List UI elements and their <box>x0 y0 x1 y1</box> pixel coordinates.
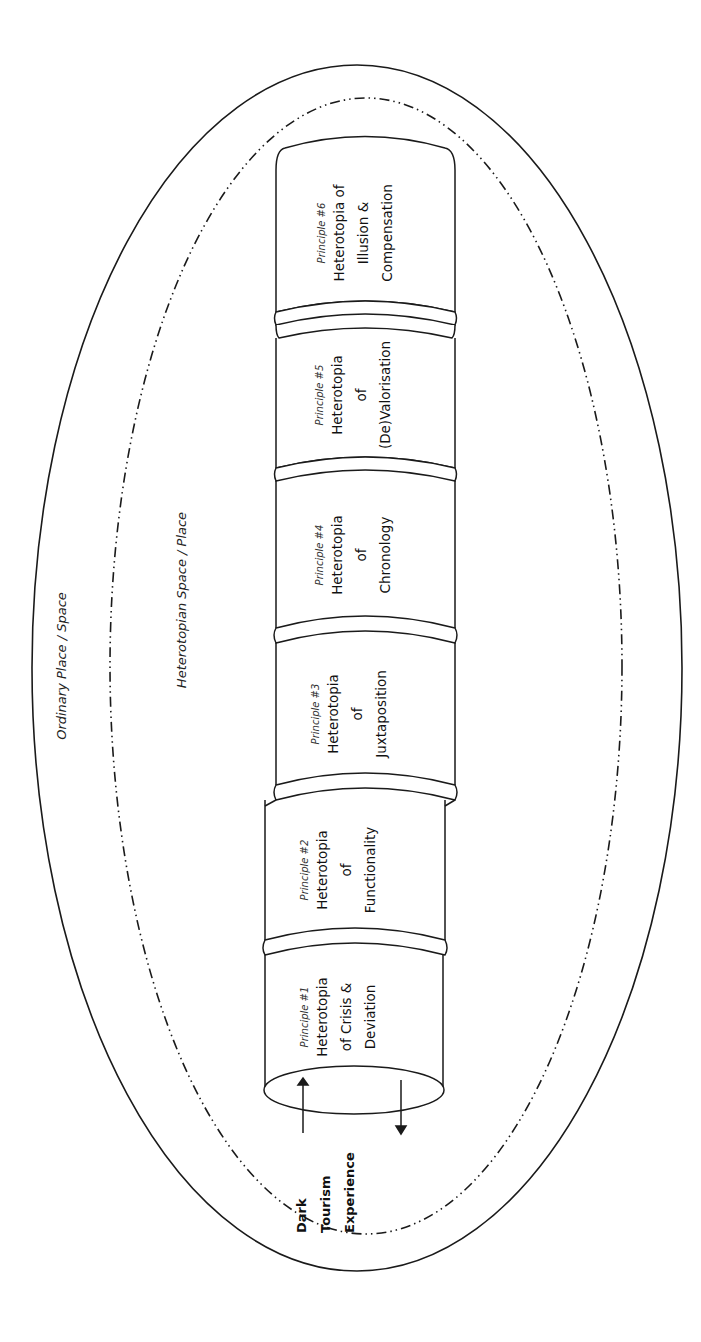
segment-4-label: Principle #4 Heterotopia of Chronology <box>314 470 414 640</box>
arrow-out-head <box>396 1126 406 1134</box>
segment-6-label: Principle #6 Heterotopia of Illusion & C… <box>316 148 416 318</box>
principle-5-line-1: Heterotopia <box>325 310 349 480</box>
principle-2-number: Principle #2 <box>299 785 310 955</box>
ordinary-space-label: Ordinary Place / Space <box>52 586 72 746</box>
segment-2-label: Principle #2 Heterotopia of Functionalit… <box>299 785 399 955</box>
segment-3-label: Principle #3 Heterotopia of Juxtapositio… <box>310 629 410 799</box>
dte-line-3: Experience <box>338 1143 362 1233</box>
dark-tourism-experience-label: Dark Tourism Experience <box>290 1143 366 1233</box>
principle-5-number: Principle #5 <box>314 310 325 480</box>
principle-5-line-3: (De)Valorisation <box>373 310 397 480</box>
dte-line-2: Tourism <box>314 1143 338 1233</box>
principle-4-line-3: Chronology <box>373 470 397 640</box>
principle-4-number: Principle #4 <box>314 470 325 640</box>
principle-6-line-1: Heterotopia of <box>327 148 351 318</box>
principle-3-line-1: Heterotopia <box>321 629 345 799</box>
heterotopian-space-label: Heterotopian Space / Place <box>172 510 192 690</box>
principle-3-number: Principle #3 <box>310 629 321 799</box>
principle-6-number: Principle #6 <box>316 148 327 318</box>
principle-6-line-2: Illusion & <box>351 148 375 318</box>
principle-3-line-2: of <box>345 629 369 799</box>
principle-5-line-2: of <box>349 310 373 480</box>
principle-6-line-3: Compensation <box>375 148 399 318</box>
principle-4-line-2: of <box>349 470 373 640</box>
principle-2-line-3: Functionality <box>358 785 382 955</box>
segment-5-label: Principle #5 Heterotopia of (De)Valorisa… <box>314 310 414 480</box>
dte-line-1: Dark <box>290 1143 314 1233</box>
principle-4-line-1: Heterotopia <box>325 470 349 640</box>
principle-2-line-2: of <box>334 785 358 955</box>
principle-2-line-1: Heterotopia <box>310 785 334 955</box>
principle-3-line-3: Juxtaposition <box>369 629 393 799</box>
